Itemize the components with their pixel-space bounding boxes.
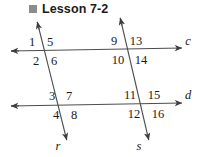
angle-label-6: 6 xyxy=(51,55,57,67)
line-c xyxy=(11,48,182,51)
line-label-d: d xyxy=(185,89,191,101)
angle-label-14: 14 xyxy=(135,54,148,66)
angle-label-3: 3 xyxy=(49,90,55,102)
geometry-diagram: 15269131014374811151216 cdrs xyxy=(0,0,207,157)
angle-label-16: 16 xyxy=(152,108,165,120)
angle-label-9: 9 xyxy=(111,35,117,47)
angle-label-15: 15 xyxy=(148,89,161,101)
angle-label-10: 10 xyxy=(112,54,125,66)
angle-label-1: 1 xyxy=(29,36,35,48)
angle-label-4: 4 xyxy=(53,109,59,121)
angle-label-2: 2 xyxy=(33,55,39,67)
line-d xyxy=(11,103,182,106)
lines-group xyxy=(11,18,182,140)
line-label-s: s xyxy=(137,140,142,152)
line-label-r: r xyxy=(56,140,61,152)
angle-label-7: 7 xyxy=(66,90,72,102)
diagram-svg xyxy=(0,0,207,157)
angle-label-11: 11 xyxy=(124,89,136,101)
line-label-c: c xyxy=(185,35,191,47)
lesson-figure-page: Lesson 7-2 15269131014374811151216 cdrs xyxy=(0,0,207,157)
angle-label-12: 12 xyxy=(128,108,141,120)
angle-label-5: 5 xyxy=(47,36,53,48)
angle-label-13: 13 xyxy=(130,35,143,47)
angle-label-8: 8 xyxy=(71,109,77,121)
arrowhead-start-s xyxy=(120,18,122,26)
arrowhead-start-r xyxy=(37,22,39,30)
